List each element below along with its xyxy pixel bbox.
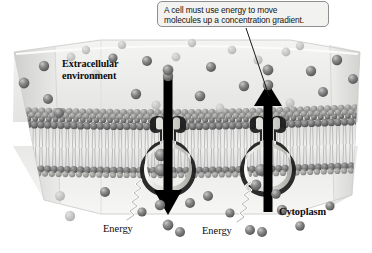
lipid-head	[143, 123, 150, 130]
callout-box: A cell must use energy to move molecules…	[157, 1, 329, 27]
lipid-head	[311, 115, 317, 121]
lipid-head	[230, 117, 236, 123]
lipid-head	[15, 170, 21, 176]
lipid-head	[123, 123, 130, 130]
lipid-head	[4, 165, 11, 172]
lipid-head	[363, 117, 368, 122]
lipid-head	[117, 123, 124, 130]
lipid-tail	[26, 128, 27, 147]
molecule	[225, 208, 234, 217]
lipid-head	[209, 123, 216, 130]
lipid-head	[235, 122, 242, 129]
molecule	[271, 189, 281, 199]
lipid-head	[300, 169, 306, 175]
lipid-head	[205, 172, 211, 178]
lipid-head	[31, 121, 38, 128]
molecule	[151, 100, 160, 109]
callout-line-2: molecules up a concentration gradient.	[164, 15, 323, 25]
molecule	[318, 87, 328, 97]
lipid-head	[18, 165, 25, 172]
lipid-head	[22, 170, 28, 176]
lipid-tail	[22, 128, 23, 147]
lipid-tail	[16, 127, 17, 146]
lipid-tail	[6, 127, 7, 146]
lipid-head	[359, 113, 365, 119]
lipid-tail	[13, 146, 14, 165]
lipid-head	[216, 123, 223, 130]
lipid-head	[189, 118, 195, 124]
lipid-head	[242, 122, 249, 129]
lipid-head	[49, 171, 55, 177]
lipid-tail	[9, 127, 10, 146]
lipid-head	[314, 169, 320, 175]
molecule	[142, 56, 152, 66]
lipid-head	[141, 118, 147, 124]
lipid-tail	[6, 146, 7, 165]
lipid-head	[130, 123, 137, 130]
transported-molecule	[263, 65, 274, 76]
lipid-head	[219, 171, 225, 177]
lipid-head	[362, 167, 368, 173]
lipid-head	[66, 117, 72, 123]
lipid-head	[308, 120, 315, 127]
lipid-head	[288, 121, 295, 128]
lipid-tail	[20, 128, 21, 147]
lipid-head	[70, 122, 77, 129]
lipid-head	[5, 107, 12, 114]
lipid-head	[94, 118, 100, 124]
lipid-head	[42, 171, 48, 177]
lipid-head	[107, 118, 113, 124]
molecule	[188, 39, 196, 47]
lipid-head	[114, 118, 120, 124]
lipid-head	[56, 171, 62, 177]
lipid-head	[212, 172, 218, 178]
lipid-head	[189, 123, 196, 130]
label-energy-left: Energy	[103, 223, 133, 234]
lipid-head	[84, 122, 91, 129]
lipid-head	[196, 123, 203, 130]
lipid-head	[222, 122, 229, 129]
lipid-tail	[9, 146, 10, 165]
lipid-head	[321, 168, 327, 174]
lipid-head	[223, 117, 229, 123]
lipid-head	[202, 118, 208, 124]
molecule	[348, 74, 358, 84]
lipid-head	[232, 171, 238, 177]
lipid-tail	[363, 143, 364, 162]
lipid-head	[345, 113, 351, 119]
lipid-head	[134, 118, 140, 124]
lipid-tail	[365, 143, 366, 162]
lipid-head	[361, 162, 368, 169]
lipid-head	[273, 170, 279, 176]
lipid-head	[124, 172, 130, 178]
molecule	[118, 41, 126, 49]
lipid-head	[328, 119, 335, 126]
molecule	[185, 198, 195, 208]
lipid-head	[121, 118, 127, 124]
lipid-head	[37, 121, 44, 128]
lipid-head	[341, 168, 347, 174]
lipid-head	[100, 118, 106, 124]
lipid-head	[90, 172, 96, 178]
lipid-head	[110, 172, 116, 178]
lipid-head	[307, 169, 313, 175]
molecule	[296, 42, 304, 50]
lipid-head	[64, 122, 71, 129]
lipid-head	[46, 117, 52, 123]
callout-line-1: A cell must use energy to move	[164, 5, 277, 15]
lipid-head	[103, 172, 109, 178]
molecule	[100, 187, 110, 197]
lipid-head	[130, 172, 136, 178]
lipid-head	[76, 171, 82, 177]
label-extracellular-line-1: Extracellular	[62, 58, 118, 69]
molecule	[65, 211, 75, 221]
lipid-head	[209, 118, 215, 124]
up-arrow-shaft	[264, 100, 273, 212]
lipid-head	[96, 172, 102, 178]
molecule	[203, 191, 213, 201]
lipid-head	[128, 118, 134, 124]
transported-molecule	[163, 65, 174, 76]
lipid-head	[11, 165, 18, 172]
molecule	[43, 94, 53, 104]
lipid-tail	[359, 125, 360, 144]
